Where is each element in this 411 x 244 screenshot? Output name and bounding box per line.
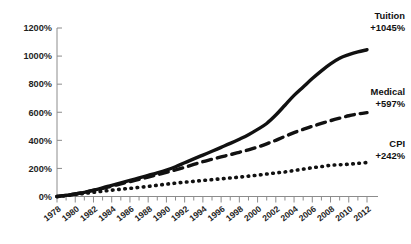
x-axis-tick-label: 1982 xyxy=(78,204,99,224)
x-axis-tick-mark-group xyxy=(57,197,367,203)
y-axis-tick-label-group: 0%200%400%600%800%1000%1200% xyxy=(23,23,52,202)
series-line-cpi xyxy=(57,163,367,197)
series-value-medical: +597% xyxy=(376,98,406,109)
y-axis-tick-label: 1200% xyxy=(23,23,52,33)
x-axis-tick-label: 2012 xyxy=(352,204,373,224)
series-label-cpi: CPI xyxy=(389,138,405,149)
x-axis-tick-label: 1994 xyxy=(187,204,208,224)
x-axis-tick-label: 1988 xyxy=(133,204,154,224)
y-axis-tick-label: 0% xyxy=(39,192,52,202)
x-axis-tick-label: 1996 xyxy=(206,204,227,224)
series-label-tuition: Tuition xyxy=(374,10,405,21)
x-axis-tick-label: 1980 xyxy=(60,204,81,224)
x-axis-tick-label: 2002 xyxy=(260,204,281,224)
x-axis-tick-label: 2000 xyxy=(242,204,263,224)
x-axis-tick-label: 1986 xyxy=(114,204,135,224)
series-line-medical xyxy=(57,113,367,197)
x-axis-tick-label: 2004 xyxy=(279,204,300,224)
x-axis-tick-label: 2006 xyxy=(297,204,318,224)
x-axis-tick-label: 1984 xyxy=(96,204,117,224)
x-axis-tick-label: 1998 xyxy=(224,204,245,224)
y-axis-tick-label: 600% xyxy=(29,108,53,118)
x-axis-tick-label: 2008 xyxy=(315,204,336,224)
series-value-tuition: +1045% xyxy=(370,22,405,33)
series-annotation-group: Tuition+1045%Medical+597%CPI+242% xyxy=(370,10,405,161)
y-axis-tick-mark-group xyxy=(57,28,62,197)
y-axis-tick-label: 200% xyxy=(29,164,53,174)
x-axis-tick-label: 1992 xyxy=(169,204,190,224)
y-axis-tick-label: 400% xyxy=(29,136,53,146)
x-axis-tick-label-group: 1978198019821984198619881990199219941996… xyxy=(42,204,373,224)
series-label-medical: Medical xyxy=(371,86,405,97)
line-chart: 0%200%400%600%800%1000%1200% 19781980198… xyxy=(0,0,411,244)
series-value-cpi: +242% xyxy=(376,150,406,161)
x-axis-tick-label: 1990 xyxy=(151,204,172,224)
x-axis-tick-label: 1978 xyxy=(42,204,63,224)
y-axis-tick-label: 1000% xyxy=(23,51,52,61)
chart-container: 0%200%400%600%800%1000%1200% 19781980198… xyxy=(0,0,411,244)
x-axis-tick-label: 2010 xyxy=(333,204,354,224)
series-group xyxy=(57,50,367,197)
y-axis-tick-label: 800% xyxy=(29,79,53,89)
